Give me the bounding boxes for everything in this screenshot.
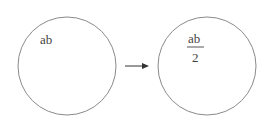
fraction-denominator: 2 [192, 51, 199, 64]
right-arrow-icon [125, 63, 149, 69]
left-circle-label: ab [40, 33, 52, 46]
left-circle [18, 17, 116, 115]
fraction-numerator: ab [188, 32, 200, 45]
right-circle [158, 17, 256, 115]
diagram-graphics [0, 0, 271, 126]
diagram: ab ab 2 [0, 0, 271, 126]
